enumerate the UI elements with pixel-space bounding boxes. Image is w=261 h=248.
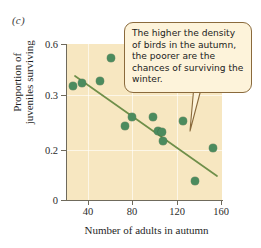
callout-annotation: The higher the density of birds in the a… (124, 22, 252, 93)
figure-panel-c: (c) 0.6 0.3 0.2 0 40 80 120 (0, 0, 261, 248)
